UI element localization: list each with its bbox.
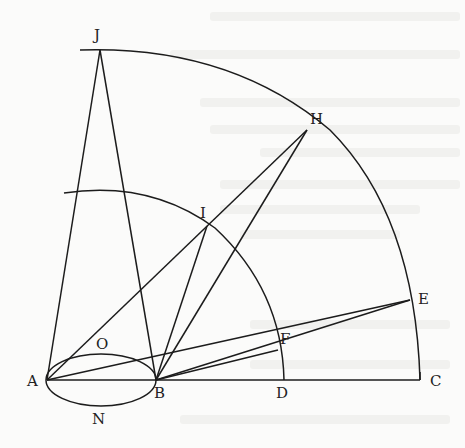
label-I: I <box>200 204 206 222</box>
label-H: H <box>310 110 323 128</box>
line-IB <box>156 226 207 380</box>
line-FB <box>156 350 278 380</box>
label-D: D <box>276 384 288 402</box>
label-E: E <box>418 290 429 308</box>
label-O: O <box>96 335 108 353</box>
line-HA <box>47 130 307 380</box>
label-F: F <box>280 330 290 348</box>
label-J: J <box>92 26 100 44</box>
label-N: N <box>92 410 105 428</box>
label-B: B <box>154 384 165 402</box>
label-C: C <box>430 372 441 390</box>
label-A: A <box>26 372 38 390</box>
geometry-diagram: J H I E F O N A B D C <box>0 0 465 448</box>
line-JA <box>47 50 100 380</box>
line-JB <box>100 50 156 380</box>
large-arc <box>80 50 420 380</box>
